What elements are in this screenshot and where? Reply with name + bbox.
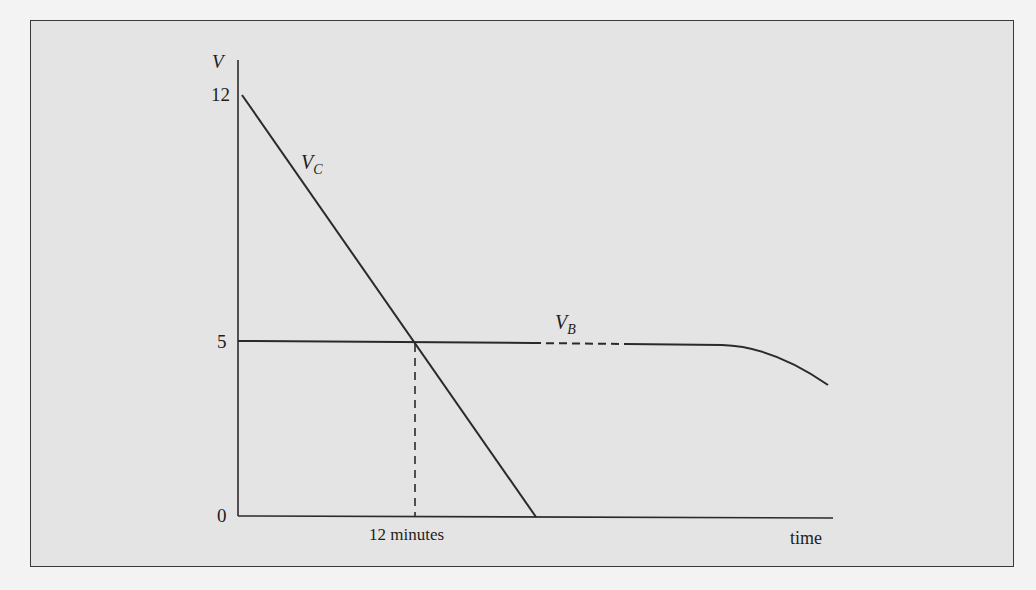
- series-vc-label: VC: [301, 151, 323, 177]
- page: V 12 5 0 VC VB 12 minutes time: [0, 0, 1036, 590]
- series-vb-label: VB: [555, 311, 576, 337]
- x-axis-label: time: [790, 528, 822, 548]
- voltage-time-chart: V 12 5 0 VC VB 12 minutes time: [0, 0, 1036, 590]
- series-vb-line-dashed: [533, 343, 626, 344]
- series-vb-line-solid-1: [238, 341, 533, 343]
- x-mark-12-minutes: 12 minutes: [369, 525, 444, 544]
- vc-label-sub: C: [313, 162, 323, 177]
- series-vc-line: [242, 95, 536, 517]
- series-vb-line-solid-2: [626, 344, 828, 385]
- y-tick-12: 12: [211, 84, 230, 105]
- y-axis-label: V: [212, 51, 226, 72]
- y-tick-5: 5: [217, 331, 227, 352]
- vb-label-sub: B: [567, 322, 576, 337]
- y-tick-0: 0: [217, 505, 227, 526]
